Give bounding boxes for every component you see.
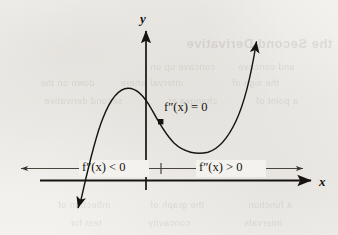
inflection-point-marker bbox=[158, 119, 163, 124]
inflection-label: f″(x) = 0 bbox=[164, 101, 208, 114]
concave-up-label: f″(x) > 0 bbox=[199, 161, 243, 174]
x-axis-label: x bbox=[319, 175, 326, 188]
cubic-curve bbox=[81, 42, 257, 202]
concavity-figure: the Second Derivativeconcave up onand co… bbox=[0, 0, 338, 235]
curve-start-arrow bbox=[78, 200, 80, 208]
y-axis-label: y bbox=[140, 12, 146, 25]
diagram-canvas bbox=[0, 0, 338, 235]
concave-down-label: f″(x) < 0 bbox=[82, 161, 126, 174]
